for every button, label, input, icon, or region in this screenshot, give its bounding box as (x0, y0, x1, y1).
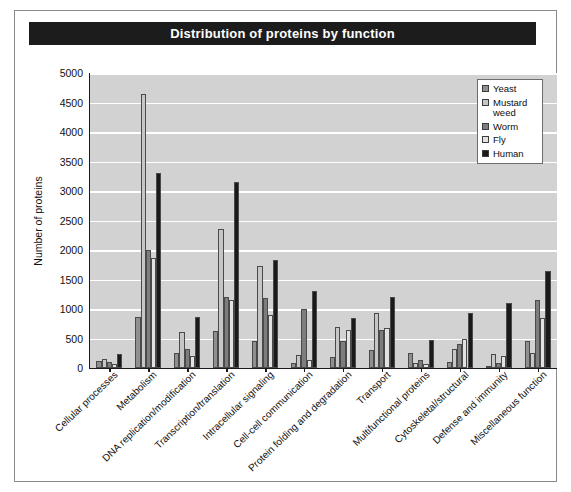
bar-group (90, 73, 129, 368)
y-tick-label: 3500 (60, 156, 83, 168)
legend-swatch-icon (482, 150, 489, 157)
y-tick-label: 500 (65, 333, 83, 345)
figure-panel: Distribution of proteins by function 050… (14, 10, 557, 482)
y-tick-label: 1500 (60, 274, 83, 286)
y-tick-label: 3000 (60, 185, 83, 197)
page-title: Distribution of proteins by function (170, 26, 395, 41)
legend: YeastMustard weedWormFlyHuman (477, 79, 543, 164)
legend-swatch-icon (482, 99, 489, 106)
y-axis-title: Number of proteins (32, 146, 44, 296)
x-axis-tick-labels: Cellular processesMetabolismDNA replicat… (89, 369, 556, 489)
chart-title-bar: Distribution of proteins by function (29, 22, 536, 45)
y-tick-label: 2500 (60, 215, 83, 227)
legend-swatch-icon (482, 85, 489, 92)
legend-label: Human (493, 149, 538, 160)
legend-swatch-icon (482, 123, 489, 130)
bar (273, 260, 278, 368)
legend-label: Yeast (493, 84, 538, 95)
y-tick-label: 2000 (60, 244, 83, 256)
legend-label: Worm (493, 122, 538, 133)
legend-swatch-icon (482, 136, 489, 143)
y-tick-label: 4500 (60, 97, 83, 109)
legend-label: Mustard weed (493, 98, 538, 119)
bar (545, 271, 550, 368)
legend-item[interactable]: Mustard weed (482, 98, 538, 119)
legend-item[interactable]: Human (482, 149, 538, 160)
legend-item[interactable]: Worm (482, 122, 538, 133)
legend-item[interactable]: Yeast (482, 84, 538, 95)
y-tick-label: 0 (77, 362, 83, 374)
legend-item[interactable]: Fly (482, 135, 538, 146)
y-axis: 0500100015002000250030003500400045005000… (15, 65, 89, 375)
y-tick-label: 1000 (60, 303, 83, 315)
y-tick-label: 5000 (60, 67, 83, 79)
y-tick-label: 4000 (60, 126, 83, 138)
legend-label: Fly (493, 135, 538, 146)
